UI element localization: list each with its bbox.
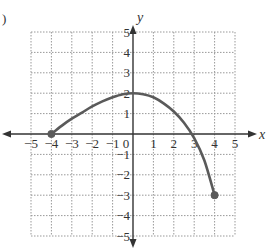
y-tick-label: −3	[116, 188, 130, 203]
x-tick-label: −3	[65, 136, 79, 151]
y-tick-label: 5	[124, 25, 131, 40]
x-tick-label: 4	[211, 136, 218, 151]
y-tick-label: 1	[124, 106, 131, 121]
panel-marker: )	[2, 11, 6, 26]
x-tick-label: 5	[232, 136, 239, 151]
x-axis-left-arrow-icon	[2, 131, 11, 138]
x-tick-label: −4	[44, 136, 58, 151]
x-tick-label: −2	[85, 136, 99, 151]
y-tick-label: −4	[116, 208, 130, 223]
endpoint-dot	[211, 192, 218, 199]
x-axis-label: x	[258, 127, 266, 142]
endpoint-dot	[48, 130, 55, 137]
graph-plot: −5−4−3−2−1012345−5−4−3−2−112345 x y )	[0, 0, 266, 251]
x-tick-label: 1	[150, 136, 157, 151]
y-axis-up-arrow-icon	[130, 25, 137, 34]
x-axis-right-arrow-icon	[248, 131, 257, 138]
y-tick-label: −1	[116, 147, 130, 162]
y-tick-label: 3	[124, 65, 131, 80]
y-tick-label: 4	[124, 45, 131, 60]
y-tick-label: −5	[116, 229, 130, 244]
x-tick-label: −5	[24, 136, 38, 151]
y-tick-label: −2	[116, 167, 130, 182]
x-tick-label: 2	[171, 136, 178, 151]
y-axis-label: y	[135, 10, 144, 25]
y-axis-down-arrow-icon	[130, 239, 137, 248]
